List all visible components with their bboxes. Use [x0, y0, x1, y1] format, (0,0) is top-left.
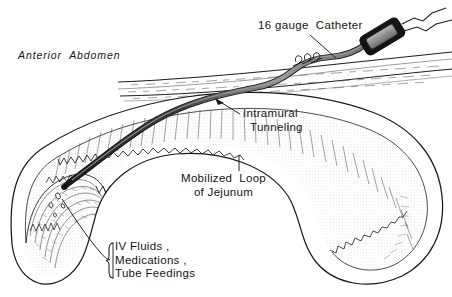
label-intramural-tunneling: IntramuralTunneling [243, 107, 303, 134]
label-iv-fluids-medications-tube-feedings: IV Fluids ,Medications ,Tube Feedings [115, 240, 195, 281]
jejunostomy-catheter-figure: Anterior Abdomen 16 gauge Catheter Intra… [0, 0, 452, 297]
label-mobilized-line1: Mobilized Loop [181, 172, 266, 184]
label-intramural-line1: Intramural [243, 107, 298, 119]
brace-bracket-iv-fluids [106, 243, 113, 278]
label-intramural-line2: Tunneling [243, 121, 303, 135]
label-16-gauge-catheter: 16 gauge Catheter [258, 19, 363, 33]
label-mobilized-line2: of Jejunum [194, 186, 253, 198]
illustration-canvas [0, 0, 452, 297]
label-mobilized-loop-of-jejunum: Mobilized Loopof Jejunum [181, 172, 266, 199]
label-iv-line2: Medications , [115, 254, 195, 268]
catheter-hub-connector [358, 16, 407, 57]
label-iv-line1: IV Fluids , [115, 240, 195, 254]
label-iv-line3: Tube Feedings [115, 267, 195, 281]
label-anterior-abdomen: Anterior Abdomen [18, 49, 120, 61]
catheter-hub-leads [402, 8, 452, 31]
